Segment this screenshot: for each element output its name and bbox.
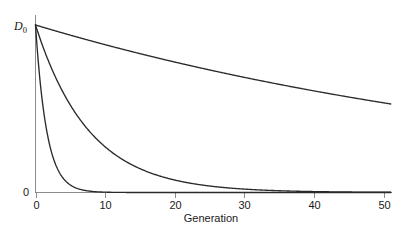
x-axis-title: Generation	[184, 212, 238, 224]
label-layer: 0 D0 Generation	[0, 0, 399, 236]
chart-figure: 01020304050 0 D0 Generation	[0, 0, 399, 236]
y-axis-label-sub: 0	[23, 25, 27, 35]
y-origin-label: 0	[23, 186, 29, 198]
y-axis-label-main: D	[13, 19, 23, 33]
y-axis-label: D0	[13, 19, 27, 35]
